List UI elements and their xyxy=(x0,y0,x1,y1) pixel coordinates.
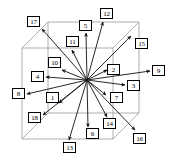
direction-label-18: 18 xyxy=(28,112,41,123)
direction-label-3: 3 xyxy=(127,80,140,91)
direction-arrow-17 xyxy=(42,29,87,80)
direction-label-1: 1 xyxy=(46,92,59,103)
direction-label-7: 7 xyxy=(110,92,123,103)
cube-direction-diagram: 123456789101112131415161718 xyxy=(0,0,169,164)
direction-label-14: 14 xyxy=(103,118,116,129)
direction-label-10: 10 xyxy=(48,57,61,68)
direction-label-5: 5 xyxy=(79,20,92,31)
direction-label-6: 6 xyxy=(86,128,99,139)
direction-label-15: 15 xyxy=(135,38,148,49)
direction-label-4: 4 xyxy=(31,71,44,82)
direction-arrow-13 xyxy=(69,80,87,140)
direction-arrow-5 xyxy=(86,33,87,80)
direction-label-12: 12 xyxy=(100,8,113,19)
direction-arrow-6 xyxy=(87,80,88,127)
direction-label-16: 16 xyxy=(133,133,146,144)
direction-label-2: 2 xyxy=(107,64,120,75)
direction-label-8: 8 xyxy=(12,88,25,99)
direction-label-9: 9 xyxy=(152,65,165,76)
direction-label-17: 17 xyxy=(27,16,40,27)
direction-label-11: 11 xyxy=(66,36,79,47)
direction-label-13: 13 xyxy=(63,142,76,153)
direction-arrow-14 xyxy=(87,80,107,117)
